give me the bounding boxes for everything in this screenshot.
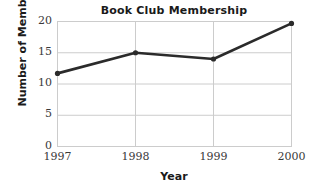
chart-container: Book Club Membership Number of Members Y…	[0, 0, 316, 189]
x-tick-label: 1998	[109, 150, 163, 163]
x-tick-label: 1999	[187, 150, 241, 163]
y-tick-label: 5	[26, 107, 52, 120]
x-tick-label: 2000	[265, 150, 317, 163]
y-tick-label: 10	[26, 76, 52, 89]
y-tick-label: 15	[26, 45, 52, 58]
data-series	[58, 23, 292, 73]
y-tick-label: 20	[26, 14, 52, 27]
data-markers	[55, 21, 294, 76]
x-tick-label: 1997	[31, 150, 85, 163]
